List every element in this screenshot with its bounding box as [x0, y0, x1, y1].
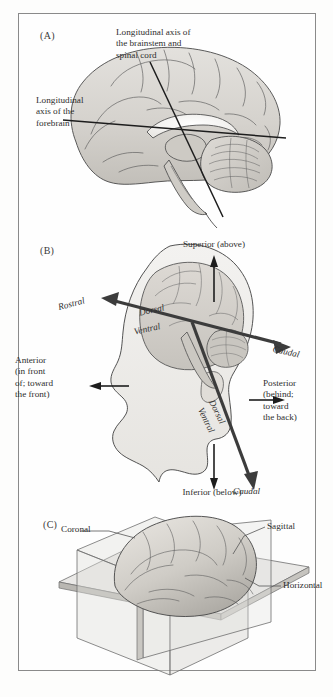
panel-c: (C) Coronal Sagittal Horizontal	[19, 14, 315, 670]
label-sagittal: Sagittal	[267, 521, 295, 532]
label-horizontal: Horizontal	[283, 580, 322, 591]
panel-c-letter: (C)	[43, 519, 57, 530]
figure-frame: (A) Longitudinal axis of the brainstem a…	[18, 13, 316, 671]
panel-c-illustration	[19, 14, 317, 672]
label-coronal: Coronal	[61, 524, 91, 535]
figure-page: (A) Longitudinal axis of the brainstem a…	[0, 0, 333, 697]
